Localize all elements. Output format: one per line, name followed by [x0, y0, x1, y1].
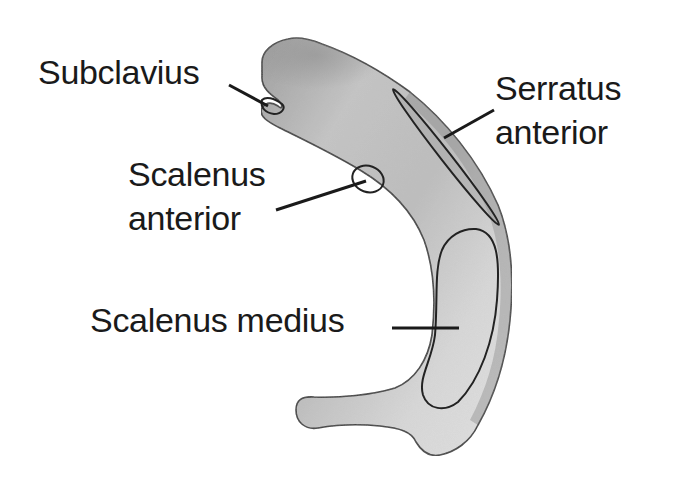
- rib-bone: [261, 38, 512, 455]
- label-serratus-anterior-line-2: anterior: [495, 110, 621, 154]
- label-serratus-anterior-line-1: Serratus: [495, 66, 621, 110]
- label-subclavius-line: Subclavius: [38, 50, 199, 94]
- scalenus-anterior-leader-line: [276, 181, 366, 210]
- rib-bone-body: [261, 38, 512, 455]
- subclavius-leader-line: [229, 85, 268, 106]
- label-scalenus-anterior-line-2: anterior: [128, 196, 265, 240]
- label-scalenus-anterior-line-1: Scalenus: [128, 152, 265, 196]
- serratus-anterior-leader-line: [444, 110, 494, 138]
- label-scalenus-medius-line: Scalenus medius: [90, 298, 344, 342]
- label-scalenus-anterior: Scalenus anterior: [128, 152, 265, 240]
- label-subclavius: Subclavius: [38, 50, 199, 94]
- label-serratus-anterior: Serratus anterior: [495, 66, 621, 154]
- label-scalenus-medius: Scalenus medius: [90, 298, 344, 342]
